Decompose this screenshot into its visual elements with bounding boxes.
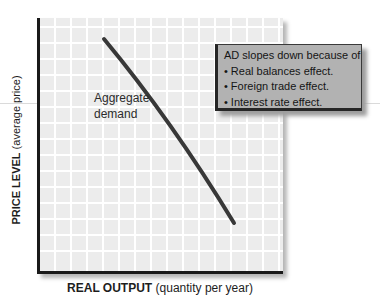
callout-bullet-2-text: Foreign trade effect. — [231, 80, 329, 92]
bullet-icon: • — [224, 65, 228, 77]
callout-bullet-1-text: Real balances effect. — [231, 65, 334, 77]
curve-label-line1: Aggregate — [94, 90, 149, 106]
figure-canvas: { "figure": { "y_axis": { "bold": "PRICE… — [0, 0, 380, 302]
curve-label: Aggregate demand — [94, 90, 149, 122]
callout-bullet-1: •Real balances effect. — [224, 64, 358, 80]
y-axis-label-bold: PRICE LEVEL — [10, 152, 22, 224]
x-axis-label-normal: (quantity per year) — [152, 281, 253, 295]
bullet-icon: • — [224, 96, 228, 108]
x-axis-label: REAL OUTPUT (quantity per year) — [37, 281, 283, 295]
callout-bullet-3-text: Interest rate effect. — [231, 96, 323, 108]
callout-bullet-2: •Foreign trade effect. — [224, 79, 358, 95]
callout-title: AD slopes down because of — [224, 48, 358, 64]
curve-label-line2: demand — [94, 106, 149, 122]
y-axis-label-normal: (average price) — [10, 75, 22, 152]
bullet-icon: • — [224, 80, 228, 92]
y-axis-label: PRICE LEVEL (average price) — [10, 75, 22, 224]
callout-bullet-3: •Interest rate effect. — [224, 95, 358, 111]
callout-box: AD slopes down because of •Real balances… — [215, 44, 362, 111]
x-axis-label-bold: REAL OUTPUT — [67, 281, 152, 295]
